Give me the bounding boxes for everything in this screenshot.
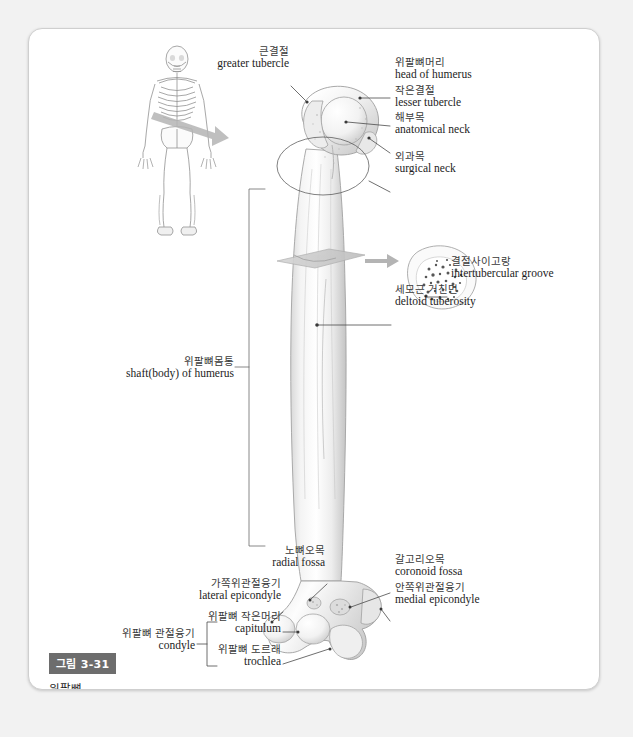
label-condyle-ko: 위팔뼈 관절융기 bbox=[49, 627, 195, 639]
label-radial-fossa-ko: 노뼈오목 bbox=[179, 544, 325, 556]
skeleton-inset-graphic bbox=[138, 46, 216, 235]
label-trochlea-en: trochlea bbox=[139, 655, 281, 669]
label-greater-tubercle-ko: 큰결절 bbox=[159, 45, 289, 57]
capitulum-graphic bbox=[296, 614, 330, 644]
figure-card: 큰결절 greater tubercle 위팔뼈머리 head of humer… bbox=[28, 28, 600, 690]
figure-caption: 그림 3-31 위팔뼈 bbox=[49, 653, 116, 690]
label-intertubercular-groove: 결절사이고랑 intertubercular groove bbox=[451, 255, 554, 281]
label-radial-fossa: 노뼈오목 radial fossa bbox=[179, 544, 325, 570]
label-lesser-tubercle-en: lesser tubercle bbox=[395, 96, 461, 110]
label-shaft-of-humerus-en: shaft(body) of humerus bbox=[49, 367, 234, 381]
label-shaft-of-humerus-ko: 위팔뼈몸통 bbox=[49, 355, 234, 367]
label-anatomical-neck: 해부목 anatomical neck bbox=[395, 111, 470, 137]
label-surgical-neck-ko: 외과목 bbox=[395, 150, 456, 162]
label-radial-fossa-en: radial fossa bbox=[179, 556, 325, 570]
figure-number-badge: 그림 3-31 bbox=[49, 653, 116, 674]
label-lateral-epicondyle-en: lateral epicondyle bbox=[139, 589, 281, 603]
label-lesser-tubercle-ko: 작은결절 bbox=[395, 84, 461, 96]
label-head-of-humerus-ko: 위팔뼈머리 bbox=[395, 56, 472, 68]
medial-epicondyle-graphic bbox=[361, 589, 381, 624]
label-anatomical-neck-ko: 해부목 bbox=[395, 111, 470, 123]
radial-fossa-graphic bbox=[307, 597, 321, 609]
label-medial-epicondyle-ko: 안쪽위관절융기 bbox=[395, 581, 480, 593]
label-deltoid-tuberosity-ko: 세모근 거친면 bbox=[395, 283, 476, 295]
label-surgical-neck-en: surgical neck bbox=[395, 162, 456, 176]
label-greater-tubercle-en: greater tubercle bbox=[159, 57, 289, 71]
label-surgical-neck: 외과목 surgical neck bbox=[395, 150, 456, 176]
label-lesser-tubercle: 작은결절 lesser tubercle bbox=[395, 84, 461, 110]
label-capitulum-ko: 위팔뼈 작은머리 bbox=[139, 610, 281, 622]
label-coronoid-fossa-ko: 갈고리오목 bbox=[395, 553, 462, 565]
label-intertubercular-groove-en: intertubercular groove bbox=[451, 267, 554, 281]
label-condyle-en: condyle bbox=[49, 639, 195, 653]
label-anatomical-neck-en: anatomical neck bbox=[395, 123, 470, 137]
label-medial-epicondyle-en: medial epicondyle bbox=[395, 593, 480, 607]
coronoid-fossa-graphic bbox=[330, 599, 350, 615]
label-coronoid-fossa: 갈고리오목 coronoid fossa bbox=[395, 553, 462, 579]
humerus-shaft-graphic bbox=[291, 149, 346, 581]
label-intertubercular-groove-ko: 결절사이고랑 bbox=[451, 255, 554, 267]
label-head-of-humerus: 위팔뼈머리 head of humerus bbox=[395, 56, 472, 82]
label-deltoid-tuberosity-en: deltoid tuberosity bbox=[395, 295, 476, 309]
figure-caption-title: 위팔뼈 bbox=[49, 680, 116, 690]
humeral-head-sphere bbox=[321, 97, 367, 145]
screenshot-root: 큰결절 greater tubercle 위팔뼈머리 head of humer… bbox=[0, 0, 633, 737]
section-arrow bbox=[365, 254, 399, 268]
label-coronoid-fossa-en: coronoid fossa bbox=[395, 565, 462, 579]
label-lateral-epicondyle-ko: 가쪽위관절융기 bbox=[139, 577, 281, 589]
cut-plane-graphic bbox=[277, 249, 365, 268]
label-medial-epicondyle: 안쪽위관절융기 medial epicondyle bbox=[395, 581, 480, 607]
label-shaft-of-humerus: 위팔뼈몸통 shaft(body) of humerus bbox=[49, 355, 234, 381]
label-greater-tubercle: 큰결절 greater tubercle bbox=[159, 45, 289, 71]
label-condyle: 위팔뼈 관절융기 condyle bbox=[49, 627, 195, 653]
label-head-of-humerus-en: head of humerus bbox=[395, 68, 472, 82]
label-deltoid-tuberosity: 세모근 거친면 deltoid tuberosity bbox=[395, 283, 476, 309]
figure-stage: 큰결절 greater tubercle 위팔뼈머리 head of humer… bbox=[29, 29, 599, 689]
label-lateral-epicondyle: 가쪽위관절융기 lateral epicondyle bbox=[139, 577, 281, 603]
